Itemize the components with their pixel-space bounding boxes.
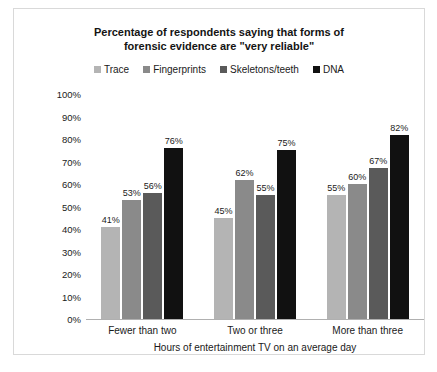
- bar-value-label: 75%: [277, 138, 295, 148]
- bar-fingerprints[interactable]: 62%: [235, 94, 254, 319]
- bar-rect: [369, 168, 388, 319]
- bar-value-label: 62%: [235, 168, 253, 178]
- bar-skeletons-teeth[interactable]: 56%: [143, 94, 162, 319]
- bar-skeletons-teeth[interactable]: 55%: [256, 94, 275, 319]
- y-axis-tick-label: 20%: [62, 269, 81, 280]
- x-axis-title: Hours of entertainment TV on an average …: [86, 342, 424, 353]
- bar-group: 45%62%55%75%: [212, 94, 298, 319]
- bar-trace[interactable]: 55%: [327, 94, 346, 319]
- y-axis-tick-label: 10%: [62, 291, 81, 302]
- chart-title: Percentage of respondents saying that fo…: [44, 25, 394, 53]
- y-axis-tick-label: 70%: [62, 156, 81, 167]
- y-axis-tick-label: 60%: [62, 179, 81, 190]
- legend-swatch-icon: [143, 66, 150, 73]
- plot-area: 100%90%80%70%60%50%40%30%20%10%0%41%53%5…: [86, 94, 424, 319]
- y-axis-tick-label: 90%: [62, 111, 81, 122]
- bar-group: 55%60%67%82%: [325, 94, 411, 319]
- bar-dna[interactable]: 76%: [164, 94, 183, 319]
- bar-value-label: 56%: [144, 181, 162, 191]
- bar-rect: [214, 218, 233, 319]
- bar-rect: [277, 150, 296, 319]
- x-axis-line: [86, 319, 424, 320]
- bar-rect: [235, 180, 254, 320]
- x-axis-category-label: More than three: [332, 325, 403, 336]
- legend-item-label: DNA: [323, 64, 344, 75]
- y-axis-tick-label: 50%: [62, 201, 81, 212]
- bar-skeletons-teeth[interactable]: 67%: [369, 94, 388, 319]
- legend-swatch-icon: [94, 66, 101, 73]
- bar-rect: [256, 195, 275, 319]
- bar-fingerprints[interactable]: 60%: [348, 94, 367, 319]
- bar-value-label: 82%: [390, 123, 408, 133]
- chart-container: Percentage of respondents saying that fo…: [13, 8, 425, 355]
- legend-swatch-icon: [313, 66, 320, 73]
- bar-fingerprints[interactable]: 53%: [122, 94, 141, 319]
- y-axis-tick-label: 0%: [67, 314, 81, 325]
- bar-value-label: 55%: [256, 183, 274, 193]
- bar-dna[interactable]: 75%: [277, 94, 296, 319]
- bar-rect: [122, 200, 141, 319]
- bar-trace[interactable]: 45%: [214, 94, 233, 319]
- legend-item-skeletons-teeth[interactable]: Skeletons/teeth: [220, 64, 299, 75]
- bar-value-label: 60%: [348, 172, 366, 182]
- bar-rect: [143, 193, 162, 319]
- bar-rect: [101, 227, 120, 319]
- bar-value-label: 45%: [214, 206, 232, 216]
- x-axis-category-label: Two or three: [227, 325, 283, 336]
- bar-value-label: 67%: [369, 156, 387, 166]
- bar-rect: [348, 184, 367, 319]
- bar-dna[interactable]: 82%: [390, 94, 409, 319]
- y-axis-tick-label: 80%: [62, 134, 81, 145]
- chart-legend: TraceFingerprintsSkeletons/teethDNA: [44, 64, 394, 75]
- legend-item-label: Skeletons/teeth: [230, 64, 299, 75]
- y-axis-tick-label: 40%: [62, 224, 81, 235]
- y-axis-tick-label: 30%: [62, 246, 81, 257]
- legend-item-dna[interactable]: DNA: [313, 64, 344, 75]
- x-axis-category-label: Fewer than two: [108, 325, 176, 336]
- legend-swatch-icon: [220, 66, 227, 73]
- bar-trace[interactable]: 41%: [101, 94, 120, 319]
- legend-item-fingerprints[interactable]: Fingerprints: [143, 64, 206, 75]
- y-axis-tick-label: 100%: [57, 89, 81, 100]
- chart-title-line-2: forensic evidence are "very reliable": [44, 39, 394, 53]
- legend-item-trace[interactable]: Trace: [94, 64, 129, 75]
- bar-value-label: 53%: [123, 188, 141, 198]
- bar-group: 41%53%56%76%: [99, 94, 185, 319]
- legend-item-label: Trace: [104, 64, 129, 75]
- bar-value-label: 76%: [165, 136, 183, 146]
- bar-rect: [164, 148, 183, 319]
- bar-value-label: 41%: [102, 215, 120, 225]
- legend-item-label: Fingerprints: [153, 64, 206, 75]
- chart-title-line-1: Percentage of respondents saying that fo…: [44, 25, 394, 39]
- bar-rect: [390, 135, 409, 320]
- bar-rect: [327, 195, 346, 319]
- bar-value-label: 55%: [327, 183, 345, 193]
